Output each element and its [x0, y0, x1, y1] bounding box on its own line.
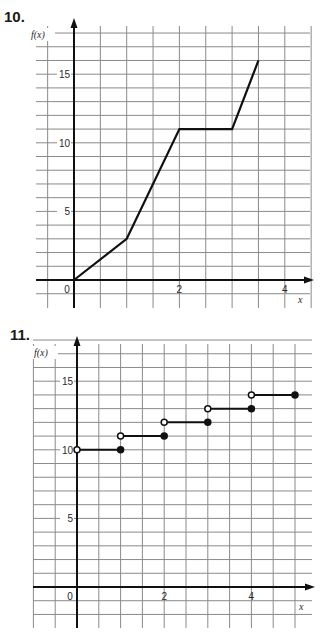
x-tick-label: 0: [67, 591, 73, 602]
y-tick-label: 5: [64, 206, 70, 217]
closed-endpoint: [118, 447, 124, 453]
open-endpoint: [248, 392, 254, 398]
closed-endpoint: [248, 406, 254, 412]
x-tick-label: 2: [177, 284, 183, 295]
closed-endpoint: [161, 433, 167, 439]
x-tick-label: 0: [64, 284, 70, 295]
y-axis-label: f(x): [31, 29, 46, 41]
y-axis-label: f(x): [34, 347, 49, 359]
y-axis-arrow-icon: [74, 336, 81, 346]
x-axis-arrow-icon: [305, 584, 315, 591]
x-axis-arrow-icon: [304, 277, 314, 284]
x-tick-label: 4: [282, 284, 288, 295]
closed-endpoint: [292, 392, 298, 398]
closed-endpoint: [205, 419, 211, 425]
y-tick-label: 5: [67, 513, 73, 524]
y-axis-arrow-icon: [71, 18, 78, 28]
chart-11: 51015024f(x)x: [32, 336, 315, 628]
open-endpoint: [74, 447, 80, 453]
x-axis-label: x: [297, 294, 303, 305]
chart-10: 51015024f(x)x: [29, 18, 314, 308]
open-endpoint: [118, 433, 124, 439]
y-tick-label: 15: [62, 376, 74, 387]
open-endpoint: [161, 419, 167, 425]
x-tick-label: 4: [249, 591, 255, 602]
x-tick-label: 2: [161, 591, 167, 602]
charts-canvas: 51015024f(x)x 51015024f(x)x: [0, 0, 328, 633]
y-tick-label: 15: [59, 69, 71, 80]
open-endpoint: [205, 406, 211, 412]
x-axis-label: x: [298, 601, 304, 612]
y-tick-label: 10: [59, 138, 71, 149]
y-tick-label: 10: [62, 445, 74, 456]
